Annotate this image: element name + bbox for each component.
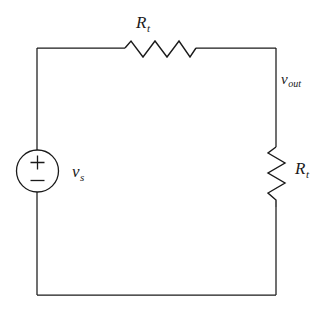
circuit-diagram: Rt Rt vs vout bbox=[0, 0, 334, 310]
resistor-top-zigzag bbox=[125, 41, 196, 57]
output-node-label: vout bbox=[281, 71, 300, 87]
resistor-right-zigzag bbox=[268, 147, 285, 207]
resistor-top-subscript: t bbox=[147, 22, 150, 34]
output-node-symbol: v bbox=[281, 71, 288, 87]
voltage-source-subscript: s bbox=[80, 171, 84, 183]
output-node-subscript: out bbox=[288, 78, 301, 89]
resistor-right-label: Rt bbox=[295, 160, 308, 177]
resistor-right-symbol: R bbox=[295, 159, 305, 178]
resistor-top-label: Rt bbox=[136, 14, 149, 31]
resistor-right-subscript: t bbox=[306, 168, 309, 180]
voltage-source-symbol: v bbox=[72, 162, 80, 181]
plus-sign-icon bbox=[31, 156, 45, 170]
circuit-schematic-svg bbox=[0, 0, 334, 310]
voltage-source-label: vs bbox=[72, 163, 84, 180]
resistor-top-symbol: R bbox=[136, 13, 146, 32]
